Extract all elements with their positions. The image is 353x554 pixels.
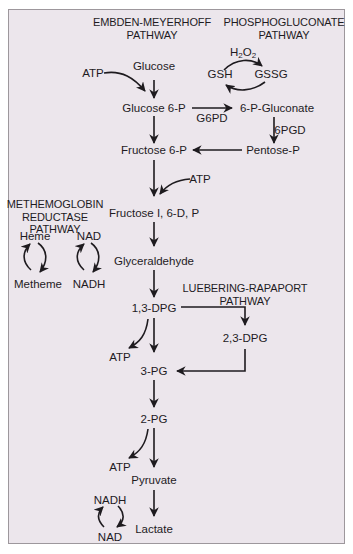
node-nad-lactate: NAD bbox=[98, 531, 122, 544]
header-line: PHOSPHOGLUCONATE bbox=[223, 16, 344, 29]
header-line: PATHWAY bbox=[93, 29, 211, 42]
node-3-pg: 3-PG bbox=[141, 365, 168, 378]
node-gssg: GSSG bbox=[254, 68, 287, 81]
node-2-pg: 2-PG bbox=[141, 413, 168, 426]
node-glucose-6-phosphate: Glucose 6-P bbox=[122, 102, 185, 115]
node-atp-output-2: ATP bbox=[109, 461, 131, 474]
node-glucose: Glucose bbox=[133, 60, 175, 73]
node-nad-methemo: NAD bbox=[77, 230, 101, 243]
node-metheme: Metheme bbox=[14, 278, 62, 291]
node-atp-output-1: ATP bbox=[109, 351, 131, 364]
node-pyruvate: Pyruvate bbox=[131, 474, 176, 487]
h2o2-sub2: 2 bbox=[252, 51, 256, 60]
header-line: REDUCTASE bbox=[7, 211, 104, 224]
node-atp-input-1: ATP bbox=[82, 67, 104, 80]
header-luebering-rapaport: LUEBERING-RAPAPORT PATHWAY bbox=[183, 282, 308, 307]
header-phosphogluconate: PHOSPHOGLUCONATE PATHWAY bbox=[223, 16, 344, 41]
arrow-atp-to-f16dp bbox=[160, 179, 190, 194]
node-glyceraldehyde: Glyceraldehyde bbox=[114, 255, 194, 268]
node-h2o2: H2O2 bbox=[230, 46, 256, 62]
header-line: METHEMOGLOBIN bbox=[7, 198, 104, 211]
arrow-13dpg-to-atp bbox=[129, 319, 148, 348]
node-nadh-methemo: NADH bbox=[73, 278, 106, 291]
node-6-p-gluconate: 6-P-Gluconate bbox=[240, 102, 314, 115]
arrow-metheme-to-heme bbox=[24, 244, 31, 270]
node-gsh: GSH bbox=[208, 68, 233, 81]
arrow-nadh-to-nad-bottom bbox=[117, 506, 123, 527]
node-nadh-lactate: NADH bbox=[94, 494, 127, 507]
header-line: EMBDEN-MEYERHOFF bbox=[93, 16, 211, 29]
header-line: PATHWAY bbox=[183, 295, 308, 308]
enzyme-6pgd: 6PGD bbox=[274, 124, 305, 137]
arrow-nadh-to-nad bbox=[77, 244, 84, 270]
node-heme: Heme bbox=[20, 230, 51, 243]
node-lactate: Lactate bbox=[135, 523, 173, 536]
arrow-gssg-to-gsh bbox=[226, 82, 265, 90]
enzyme-g6pd: G6PD bbox=[196, 112, 227, 125]
header-line: LUEBERING-RAPAPORT bbox=[183, 282, 308, 295]
header-line: PATHWAY bbox=[223, 29, 344, 42]
node-2-3-dpg: 2,3-DPG bbox=[223, 332, 268, 345]
node-1-3-dpg: 1,3-DPG bbox=[132, 302, 177, 315]
node-fructose-6-phosphate: Fructose 6-P bbox=[121, 144, 187, 157]
arrow-nad-to-nadh-bottom bbox=[99, 507, 104, 527]
h2o2-o: O bbox=[243, 46, 252, 58]
pathway-arrows bbox=[0, 0, 353, 554]
arrow-nad-to-nadh bbox=[91, 243, 99, 272]
arrow-atp-to-g6p bbox=[104, 72, 145, 91]
node-atp-input-2: ATP bbox=[189, 173, 211, 186]
node-pentose-phosphate: Pentose-P bbox=[246, 144, 300, 157]
node-fructose-1-6-diphosphate: Fructose I, 6-D, P bbox=[109, 207, 199, 220]
arrow-13dpg-to-23dpg bbox=[181, 307, 245, 325]
header-embden-meyerhoff: EMBDEN-MEYERHOFF PATHWAY bbox=[93, 16, 211, 41]
arrow-heme-to-metheme bbox=[38, 243, 46, 272]
arrow-2pg-to-atp bbox=[129, 429, 148, 458]
arrow-23dpg-to-3pg bbox=[177, 349, 245, 371]
